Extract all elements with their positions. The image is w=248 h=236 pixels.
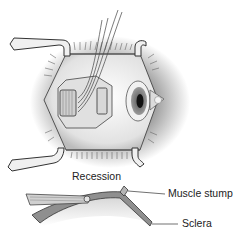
recession-illustration — [0, 0, 248, 236]
muscle-stump-leader — [128, 191, 165, 194]
muscle-end — [60, 90, 76, 116]
cornea — [126, 81, 150, 121]
suture-knot — [84, 196, 90, 202]
muscle-stump-label: Muscle stump — [168, 188, 233, 199]
sclera-label: Sclera — [182, 218, 212, 229]
cross-section — [26, 186, 178, 226]
diagram-title: Recession — [72, 171, 121, 182]
insertion-site — [97, 88, 107, 114]
muscle-insertion-area — [58, 76, 112, 128]
recessed-muscle — [26, 194, 89, 205]
